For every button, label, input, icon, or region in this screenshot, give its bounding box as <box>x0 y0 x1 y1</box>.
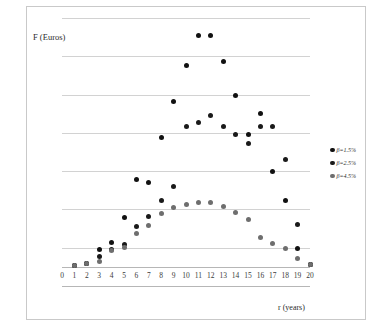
data-point <box>208 200 213 205</box>
data-point <box>159 135 164 140</box>
chart-root: F (Euros) r (years) -1135791113012345678… <box>0 0 380 335</box>
gridline <box>62 56 310 57</box>
x-axis-title: r (years) <box>278 303 305 312</box>
x-axis-line <box>62 267 310 268</box>
data-point <box>184 202 189 207</box>
data-point <box>97 247 102 252</box>
gridline <box>62 286 310 287</box>
data-point <box>196 33 201 38</box>
data-point <box>196 200 201 205</box>
data-point <box>258 111 263 116</box>
data-point <box>233 93 238 98</box>
data-point <box>270 124 275 129</box>
data-point <box>196 120 201 125</box>
data-point <box>221 204 226 209</box>
data-point <box>221 59 226 64</box>
data-point <box>122 245 127 250</box>
legend-swatch-icon <box>330 161 335 166</box>
gridline <box>62 18 310 19</box>
legend-label: β=1.5% <box>337 147 357 153</box>
legend-label: β=4.5% <box>337 173 357 179</box>
data-point <box>84 261 89 266</box>
data-point <box>97 259 102 264</box>
legend-label: β=2.5% <box>337 160 357 166</box>
data-point <box>233 132 238 137</box>
data-point <box>295 246 300 251</box>
legend-item: β=1.5% <box>330 147 356 153</box>
data-point <box>134 231 139 236</box>
data-point <box>283 157 288 162</box>
data-point <box>295 222 300 227</box>
data-point <box>221 124 226 129</box>
data-point <box>246 132 251 137</box>
data-point <box>208 33 213 38</box>
data-point <box>184 63 189 68</box>
data-point <box>258 124 263 129</box>
data-point <box>171 184 176 189</box>
data-point <box>134 224 139 229</box>
data-point <box>270 241 275 246</box>
gridline <box>62 133 310 134</box>
data-point <box>171 99 176 104</box>
data-point <box>122 215 127 220</box>
data-point <box>208 113 213 118</box>
data-point <box>146 223 151 228</box>
data-point <box>184 124 189 129</box>
data-point <box>246 217 251 222</box>
legend-swatch-icon <box>330 148 335 153</box>
data-point <box>109 240 114 245</box>
gridline <box>62 95 310 96</box>
data-point <box>283 198 288 203</box>
x-tick-label: 20 <box>301 271 319 280</box>
legend-swatch-icon <box>330 174 335 179</box>
y-axis-title: F (Euros) <box>33 32 65 42</box>
data-point <box>146 180 151 185</box>
data-point <box>109 248 114 253</box>
data-point <box>159 211 164 216</box>
legend-item: β=4.5% <box>330 173 356 179</box>
gridline <box>62 209 310 210</box>
legend-item: β=2.5% <box>330 160 356 166</box>
chart-legend: β=1.5%β=2.5%β=4.5% <box>330 147 356 179</box>
data-point <box>233 210 238 215</box>
data-point <box>283 246 288 251</box>
data-point <box>270 169 275 174</box>
data-point <box>134 177 139 182</box>
data-point <box>159 198 164 203</box>
data-point <box>146 214 151 219</box>
data-point <box>246 141 251 146</box>
data-point <box>295 256 300 261</box>
plot-area: -113579111301234567891011121314151617181… <box>62 18 310 286</box>
data-point <box>258 235 263 240</box>
